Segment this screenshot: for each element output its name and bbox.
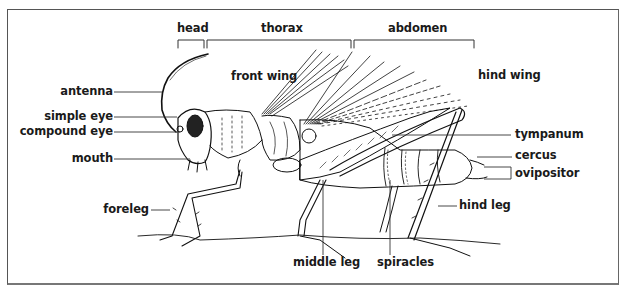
label-abdomen: abdomen <box>388 22 447 35</box>
label-hind-leg: hind leg <box>459 199 511 212</box>
label-mouth: mouth <box>72 152 113 165</box>
label-compound-eye: compound eye <box>20 125 113 138</box>
insect-diagram: head thorax abdomen antenna simple eye c… <box>0 0 628 293</box>
label-tympanum: tympanum <box>515 128 584 141</box>
label-foreleg: foreleg <box>103 203 149 216</box>
grasshopper-drawing <box>0 0 628 293</box>
label-ovipositor: ovipositor <box>515 167 579 180</box>
label-front-wing: front wing <box>231 70 297 83</box>
label-antenna: antenna <box>60 85 113 98</box>
label-simple-eye: simple eye <box>44 110 113 123</box>
label-cercus: cercus <box>515 149 557 162</box>
label-middle-leg: middle leg <box>293 256 360 269</box>
label-head: head <box>177 22 209 35</box>
compound-eye-shape <box>187 115 203 137</box>
label-spiracles: spiracles <box>377 256 434 269</box>
wing-veins <box>262 50 468 126</box>
label-hind-wing: hind wing <box>478 69 541 82</box>
segment-brackets <box>178 40 474 48</box>
label-thorax: thorax <box>261 22 303 35</box>
